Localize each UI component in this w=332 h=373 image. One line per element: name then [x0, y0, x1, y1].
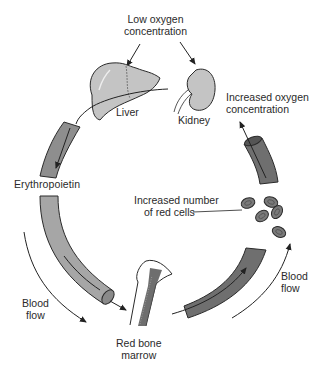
red-bone-marrow-label: Red bone marrow	[116, 337, 162, 361]
bone-marrow-icon	[130, 260, 172, 326]
vessel-upper-left	[40, 122, 80, 178]
kidney-icon	[174, 69, 215, 114]
vessel-upper-right	[240, 122, 278, 184]
low-oxygen-label: Low oxygen concentration	[124, 13, 187, 37]
blood-flow-left-label: Blood flow	[22, 297, 49, 321]
vessel-lower-right	[172, 248, 266, 318]
increased-oxygen-label: Increased oxygen concentration	[226, 91, 309, 115]
blood-flow-right-label: Blood flow	[281, 270, 308, 294]
erythropoietin-label: Erythropoietin	[14, 178, 80, 190]
liver-label: Liver	[116, 106, 139, 118]
kidney-label: Kidney	[178, 114, 210, 126]
vessel-lower-left	[40, 196, 126, 310]
low-oxygen-arrows	[127, 42, 195, 66]
red-cells-label: Increased number of red cells	[134, 194, 219, 218]
